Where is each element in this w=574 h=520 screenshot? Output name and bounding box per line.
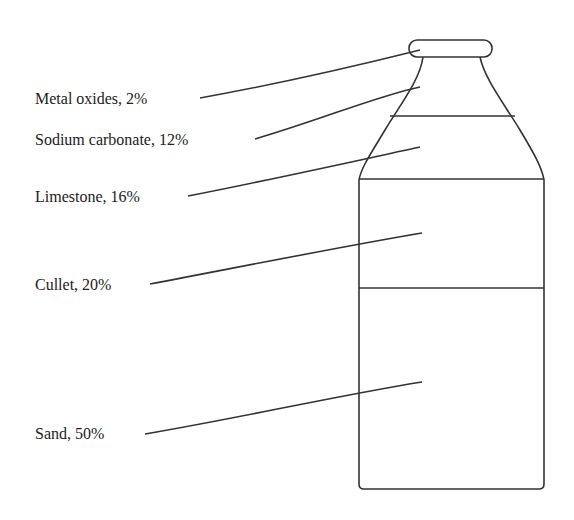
leader-cullet	[150, 233, 422, 284]
leader-metal-oxides	[200, 50, 420, 98]
bottle-outline	[359, 57, 544, 489]
label-metal-oxides: Metal oxides, 2%	[35, 91, 147, 107]
leader-sand	[145, 382, 422, 434]
bottle-diagram	[0, 0, 574, 520]
leader-limestone	[188, 147, 420, 196]
label-limestone: Limestone, 16%	[35, 189, 140, 205]
bottle-cap	[409, 40, 492, 57]
label-cullet: Cullet, 20%	[35, 277, 111, 293]
label-sodium-carbonate: Sodium carbonate, 12%	[35, 132, 188, 148]
label-sand: Sand, 50%	[35, 426, 104, 442]
